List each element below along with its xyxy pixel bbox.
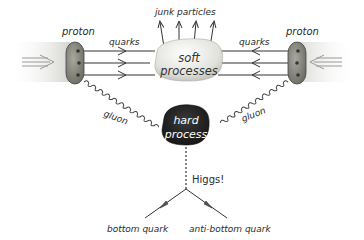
decay-lines xyxy=(145,189,227,218)
label-quarks-left: quarks xyxy=(109,37,140,47)
beam-left xyxy=(8,42,70,82)
label-hard: hard xyxy=(173,114,199,127)
proton-collision-diagram: proton proton quarks quarks junk particl… xyxy=(0,0,364,240)
label-proton-left: proton xyxy=(61,26,95,37)
quark-lines-left xyxy=(78,47,155,79)
proton-left xyxy=(66,42,84,84)
label-proton-right: proton xyxy=(285,26,319,37)
label-quarks-right: quarks xyxy=(239,37,270,47)
bottom-quark-arrow-icon xyxy=(160,201,168,208)
quark-lines-right xyxy=(218,47,290,79)
proton-right xyxy=(288,42,306,84)
label-gluon-left: gluon xyxy=(102,108,129,126)
label-bottom-quark: bottom quark xyxy=(107,224,169,234)
label-higgs: Higgs! xyxy=(192,174,224,185)
label-anti-bottom-quark: anti-bottom quark xyxy=(189,224,272,234)
label-junk-particles: junk particles xyxy=(153,7,216,17)
label-processes: processes xyxy=(159,64,218,78)
label-soft: soft xyxy=(178,51,200,65)
anti-bottom-quark-arrow-icon xyxy=(204,201,212,208)
label-process: process xyxy=(164,128,208,141)
label-gluon-right: gluon xyxy=(240,105,267,124)
